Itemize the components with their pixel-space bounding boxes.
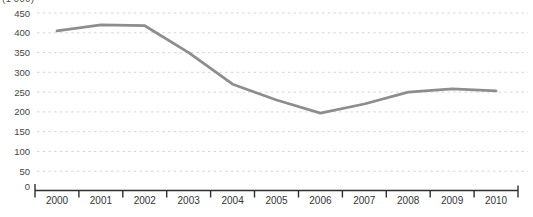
line-chart: 0501001502002503003504004502000200120022… [0,0,533,217]
x-axis-tick-label: 2004 [221,195,244,206]
x-axis-tick-label: 2000 [46,195,69,206]
chart-container: (1'000) 05010015020025030035040045020002… [0,0,533,217]
y-axis-tick-label: 300 [14,67,30,78]
x-axis-tick-label: 2005 [265,195,288,206]
x-axis-tick-label: 2008 [397,195,420,206]
x-axis-tick-label: 2010 [485,195,508,206]
y-axis-tick-label: 400 [14,27,30,38]
x-axis-tick-label: 2001 [90,195,113,206]
x-axis-tick-label: 2006 [309,195,332,206]
y-axis-tick-label: 50 [19,166,30,177]
y-axis-tick-label: 450 [14,8,30,19]
y-axis-tick-label: 200 [14,106,30,117]
y-axis-tick-label: 250 [14,87,30,98]
y-axis-tick-label: 150 [14,126,30,137]
x-axis-tick-label: 2002 [134,195,157,206]
x-axis-tick-label: 2003 [178,195,201,206]
x-axis-tick-label: 2007 [353,195,376,206]
y-axis-tick-label: 350 [14,47,30,58]
data-line-series [57,25,496,113]
x-axis-tick-label: 2009 [441,195,464,206]
y-axis-tick-label: 100 [14,146,30,157]
y-axis-tick-label: 0 [25,181,30,192]
